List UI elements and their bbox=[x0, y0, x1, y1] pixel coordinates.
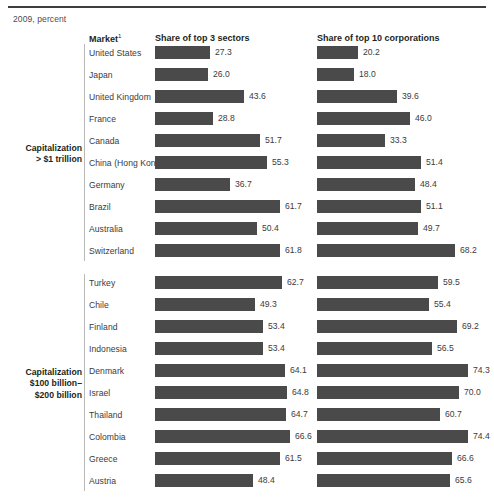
bar-value-sectors: 50.4 bbox=[262, 223, 279, 233]
bar-value-corporations: 20.2 bbox=[363, 47, 380, 57]
market-name: Israel bbox=[89, 388, 110, 398]
market-name: Chile bbox=[89, 300, 109, 310]
bar-value-corporations: 70.0 bbox=[464, 387, 481, 397]
bar-value-corporations: 65.6 bbox=[455, 475, 472, 485]
bar-corporations bbox=[317, 430, 468, 443]
bar-value-sectors: 55.3 bbox=[272, 157, 289, 167]
bar-corporations bbox=[317, 298, 429, 311]
bar-sectors bbox=[155, 178, 230, 191]
bar-value-corporations: 56.5 bbox=[437, 343, 454, 353]
bar-sectors bbox=[155, 276, 282, 289]
bar-sectors bbox=[155, 222, 257, 235]
market-row: Switzerland61.868.2 bbox=[0, 242, 494, 264]
market-row: China (Hong Kong)55.351.4 bbox=[0, 154, 494, 176]
bar-sectors bbox=[155, 452, 280, 465]
bar-value-sectors: 27.3 bbox=[215, 47, 232, 57]
market-name: Austria bbox=[89, 476, 116, 486]
market-row: United Kingdom43.639.6 bbox=[0, 88, 494, 110]
bar-value-sectors: 64.7 bbox=[291, 409, 308, 419]
bar-corporations bbox=[317, 90, 397, 103]
bar-corporations bbox=[317, 364, 468, 377]
column-header-market-label: Market bbox=[89, 34, 118, 44]
bar-value-corporations: 46.0 bbox=[415, 113, 432, 123]
bar-value-sectors: 66.6 bbox=[295, 431, 312, 441]
capitalization-group: Capitalization> $1 trillionUnited States… bbox=[0, 44, 494, 264]
bar-value-sectors: 61.8 bbox=[285, 245, 302, 255]
market-row: Greece61.566.6 bbox=[0, 450, 494, 472]
column-header-market: Market1 bbox=[89, 33, 121, 44]
market-name: France bbox=[89, 114, 116, 124]
bar-value-corporations: 48.4 bbox=[420, 179, 437, 189]
bar-sectors bbox=[155, 156, 267, 169]
bar-value-corporations: 39.6 bbox=[402, 91, 419, 101]
market-row: Japan26.018.0 bbox=[0, 66, 494, 88]
bar-corporations bbox=[317, 474, 450, 487]
column-header-corporations: Share of top 10 corporations bbox=[317, 33, 440, 43]
market-row: Israel64.870.0 bbox=[0, 384, 494, 406]
bar-corporations bbox=[317, 386, 459, 399]
market-row: Canada51.733.3 bbox=[0, 132, 494, 154]
bar-value-sectors: 36.7 bbox=[235, 179, 252, 189]
market-row: Brazil61.751.1 bbox=[0, 198, 494, 220]
bar-corporations bbox=[317, 200, 421, 213]
bar-corporations bbox=[317, 244, 455, 257]
bar-value-corporations: 69.2 bbox=[462, 321, 479, 331]
bar-value-sectors: 61.5 bbox=[285, 453, 302, 463]
market-name: Denmark bbox=[89, 366, 124, 376]
bar-value-corporations: 60.7 bbox=[445, 409, 462, 419]
bar-value-corporations: 18.0 bbox=[359, 69, 376, 79]
bar-sectors bbox=[155, 298, 255, 311]
bar-value-corporations: 51.4 bbox=[426, 157, 443, 167]
market-name: China (Hong Kong) bbox=[89, 158, 163, 168]
bar-value-sectors: 49.3 bbox=[260, 299, 277, 309]
bar-value-sectors: 62.7 bbox=[287, 277, 304, 287]
top-rule-divider bbox=[8, 6, 486, 8]
bar-value-sectors: 53.4 bbox=[268, 343, 285, 353]
bar-corporations bbox=[317, 178, 415, 191]
bar-value-corporations: 74.3 bbox=[473, 365, 490, 375]
bar-value-sectors: 43.6 bbox=[249, 91, 266, 101]
bar-sectors bbox=[155, 408, 286, 421]
bar-value-corporations: 74.4 bbox=[473, 431, 490, 441]
bar-sectors bbox=[155, 320, 263, 333]
bar-corporations bbox=[317, 342, 432, 355]
bar-value-corporations: 49.7 bbox=[423, 223, 440, 233]
market-name: Colombia bbox=[89, 432, 126, 442]
bar-corporations bbox=[317, 68, 354, 81]
bar-value-sectors: 53.4 bbox=[268, 321, 285, 331]
bar-corporations bbox=[317, 134, 385, 147]
bar-sectors bbox=[155, 68, 208, 81]
bar-corporations bbox=[317, 46, 358, 59]
bar-corporations bbox=[317, 222, 418, 235]
bar-corporations bbox=[317, 112, 410, 125]
bar-value-corporations: 66.6 bbox=[457, 453, 474, 463]
bar-sectors bbox=[155, 430, 290, 443]
market-name: United States bbox=[89, 48, 141, 58]
bar-value-corporations: 68.2 bbox=[460, 245, 477, 255]
bar-corporations bbox=[317, 156, 421, 169]
market-name: Germany bbox=[89, 180, 125, 190]
bar-value-corporations: 51.1 bbox=[426, 201, 443, 211]
bar-sectors bbox=[155, 112, 213, 125]
bar-value-corporations: 33.3 bbox=[390, 135, 407, 145]
bar-corporations bbox=[317, 276, 438, 289]
market-name: Indonesia bbox=[89, 344, 127, 354]
bar-value-sectors: 48.4 bbox=[258, 475, 275, 485]
bar-corporations bbox=[317, 320, 457, 333]
bar-value-sectors: 64.1 bbox=[290, 365, 307, 375]
market-row: Finland53.469.2 bbox=[0, 318, 494, 340]
bar-sectors bbox=[155, 386, 287, 399]
bar-sectors bbox=[155, 474, 253, 487]
bar-value-sectors: 51.7 bbox=[265, 135, 282, 145]
bar-value-sectors: 26.0 bbox=[213, 69, 230, 79]
market-name: Turkey bbox=[89, 278, 115, 288]
market-name: Greece bbox=[89, 454, 117, 464]
bar-sectors bbox=[155, 46, 210, 59]
bar-sectors bbox=[155, 200, 280, 213]
bar-value-sectors: 64.8 bbox=[292, 387, 309, 397]
market-row: Denmark64.174.3 bbox=[0, 362, 494, 384]
market-name: Japan bbox=[89, 70, 113, 80]
bar-sectors bbox=[155, 90, 244, 103]
market-name: Switzerland bbox=[89, 246, 134, 256]
exhibit-container: 2009, percent Market1 Share of top 3 sec… bbox=[0, 0, 494, 501]
